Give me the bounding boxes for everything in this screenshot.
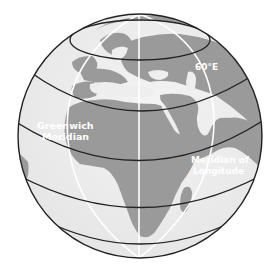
label-meridian-line2: Longitude	[193, 166, 244, 176]
label-greenwich-line1: Greenwich	[37, 120, 94, 131]
label-meridian-line1: Meridian of	[191, 155, 249, 165]
label-greenwich-line2: Meridian	[42, 131, 89, 142]
label-60e: 60°E	[195, 62, 218, 72]
globe-diagram: 60°E Greenwich Meridian Meridian of Long…	[0, 0, 279, 269]
